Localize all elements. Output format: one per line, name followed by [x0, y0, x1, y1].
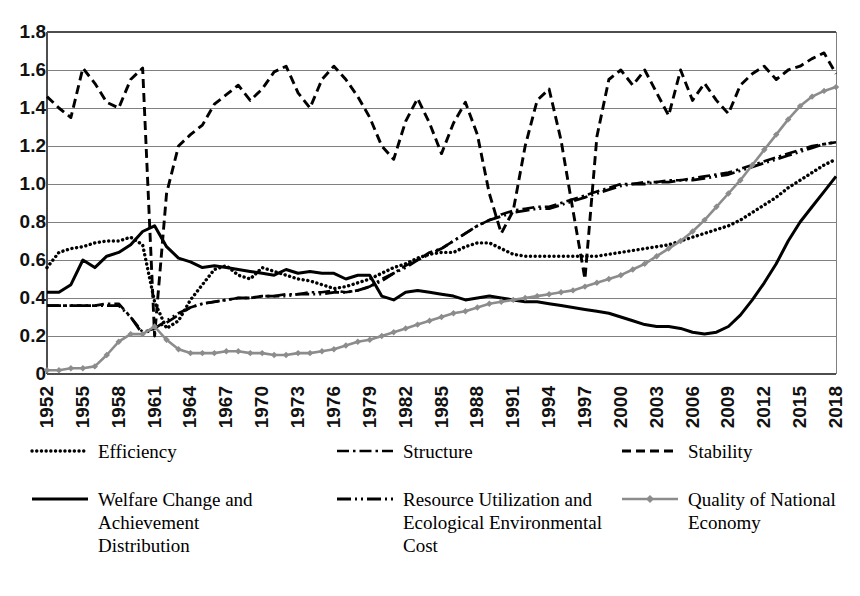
series-marker: [343, 342, 349, 348]
legend-swatch-longdashdotdot: [335, 488, 397, 508]
legend-label: Structure: [403, 440, 473, 463]
legend-item[interactable]: Stability: [620, 440, 860, 463]
x-axis-tick-label: 1982: [396, 386, 415, 428]
series-marker: [295, 350, 301, 356]
series-marker: [833, 84, 839, 90]
series-marker: [307, 350, 313, 356]
legend-swatch-dashed: [620, 440, 682, 460]
series-marker: [450, 310, 456, 316]
series-line: [47, 142, 836, 334]
series-marker: [319, 348, 325, 354]
series-marker: [558, 289, 564, 295]
x-axis-tick-label: 1991: [503, 386, 522, 428]
legend-label: Efficiency: [98, 440, 177, 463]
x-axis-tick-label: 1988: [467, 386, 486, 428]
series-marker: [546, 291, 552, 297]
chart-container: 1.81.61.41.21.00.80.60.40.20 19521955195…: [0, 0, 860, 596]
series-marker: [414, 321, 420, 327]
x-axis-tick-label: 1952: [37, 386, 56, 428]
x-axis-tick-label: 1970: [252, 386, 271, 428]
series-marker: [367, 337, 373, 343]
series-marker: [426, 318, 432, 324]
x-axis-tick-label: 2003: [647, 386, 666, 428]
series-marker: [606, 276, 612, 282]
series-marker: [390, 329, 396, 335]
series-marker: [594, 280, 600, 286]
legend-swatch-dotted: [30, 440, 92, 460]
series-marker: [68, 365, 74, 371]
series-marker: [271, 352, 277, 358]
series-marker: [80, 365, 86, 371]
legend-swatch-solid-marker: [620, 488, 682, 508]
series-marker: [187, 350, 193, 356]
x-axis-tick-label: 2012: [754, 386, 773, 428]
series-marker: [438, 314, 444, 320]
series-marker: [570, 287, 576, 293]
x-axis-tick-label: 1961: [145, 386, 164, 428]
series-marker: [462, 308, 468, 314]
series-marker: [199, 350, 205, 356]
legend-item[interactable]: Efficiency: [30, 440, 330, 463]
series-line: [47, 142, 836, 332]
legend-label: Welfare Change and Achievement Distribut…: [98, 488, 253, 557]
x-axis-tick-label: 1964: [180, 386, 199, 428]
x-axis-tick-label: 1973: [288, 386, 307, 428]
series-longdashdotdot: [47, 142, 836, 334]
series-dashdot: [47, 142, 836, 332]
series-marker: [486, 301, 492, 307]
series-marker: [211, 350, 217, 356]
series-marker: [56, 367, 62, 373]
series-marker: [474, 304, 480, 310]
legend-item[interactable]: Resource Utilization and Ecological Envi…: [335, 488, 625, 557]
series-marker: [259, 350, 265, 356]
series-marker: [283, 352, 289, 358]
x-axis-tick-label: 2018: [826, 386, 845, 428]
x-axis-tick-label: 1979: [360, 386, 379, 428]
x-axis-tick-label: 2009: [718, 386, 737, 428]
series-marker: [223, 348, 229, 354]
legend-swatch-dashdot: [335, 440, 397, 460]
chart-legend: EfficiencyStructureStabilityWelfare Chan…: [0, 440, 860, 590]
legend-marker: [646, 495, 654, 503]
x-axis-ticks: 1952195519581961196419671970197319761979…: [0, 382, 860, 442]
legend-label: Stability: [688, 440, 752, 463]
x-axis-tick-label: 2000: [611, 386, 630, 428]
plot-area: [0, 0, 860, 400]
x-axis-tick-label: 2015: [790, 386, 809, 428]
legend-label: Quality of National Economy: [688, 488, 836, 534]
x-axis-tick-label: 1955: [73, 386, 92, 428]
series-marker: [247, 350, 253, 356]
series-marker: [379, 333, 385, 339]
x-axis-tick-label: 1997: [575, 386, 594, 428]
x-axis-tick-label: 1994: [539, 386, 558, 428]
x-axis-tick-label: 1985: [432, 386, 451, 428]
legend-item[interactable]: Welfare Change and Achievement Distribut…: [30, 488, 330, 557]
series-marker: [582, 283, 588, 289]
legend-item[interactable]: Structure: [335, 440, 625, 463]
legend-swatch-solid: [30, 488, 92, 508]
series-marker: [44, 367, 50, 373]
series-marker: [331, 346, 337, 352]
series-marker: [355, 339, 361, 345]
series-marker: [235, 348, 241, 354]
x-axis-tick-label: 1958: [109, 386, 128, 428]
legend-item[interactable]: Quality of National Economy: [620, 488, 860, 534]
x-axis-tick-label: 1967: [216, 386, 235, 428]
series-marker: [402, 325, 408, 331]
x-axis-tick-label: 1976: [324, 386, 343, 428]
legend-label: Resource Utilization and Ecological Envi…: [403, 488, 602, 557]
x-axis-tick-label: 2006: [683, 386, 702, 428]
